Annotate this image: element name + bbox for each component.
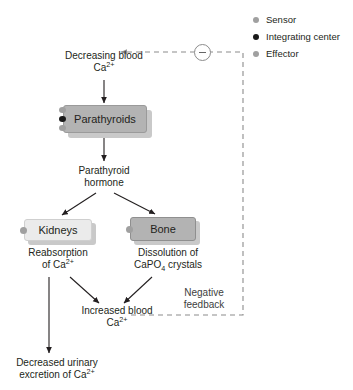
legend: Sensor Integrating center Effector [253,12,353,63]
reabsorption-charge: 2+ [66,257,74,266]
feedback-line1: Negative [168,287,240,299]
box-parathyroids-label: Parathyroids [74,113,136,125]
bone-role-dots [126,217,133,241]
box-bone-label: Bone [150,223,176,235]
box-bone[interactable]: Bone [130,217,196,241]
node-decreased-excretion: Decreased urinary excretion of Ca2+ [0,357,117,381]
stimulus-line2: Ca2+ [44,62,164,74]
negative-feedback-minus-icon [194,44,211,61]
effector-dot-icon [20,227,27,234]
kidneys-role-dots [20,219,27,241]
parathyroids-role-dots [59,105,66,133]
node-parathyroid-hormone: Parathyroid hormone [54,165,154,189]
node-dissolution: Dissolution of CaPO4 crystals [112,247,224,271]
effector-dot-icon [253,51,259,57]
diagram-canvas: Sensor Integrating center Effector Decre… [0,0,353,390]
minus-bar-glyph [199,52,206,53]
box-parathyroids[interactable]: Parathyroids [63,105,147,133]
integrating-center-dot-icon [59,116,66,122]
legend-label-effector: Effector [266,48,299,59]
legend-label-integrating-center: Integrating center [266,31,340,42]
stimulus-ca: Ca [94,62,107,73]
feedback-line2: feedback [168,299,240,311]
increased-charge: 2+ [119,315,127,324]
dissolution-capo: CaPO [134,259,161,270]
stimulus-charge: 2+ [106,60,114,69]
arrow-dissolution-to-increased [124,277,152,303]
increased-ca: Ca [107,317,120,328]
sensor-dot-icon [59,107,66,113]
arrow-hormone-to-bone [114,193,155,214]
integrating-center-dot-icon [253,34,259,40]
dissolution-crystals: crystals [165,259,202,270]
legend-item-effector: Effector [253,46,353,61]
legend-item-integrating-center: Integrating center [253,29,353,44]
legend-item-sensor: Sensor [253,12,353,27]
sensor-dot-icon [253,17,259,23]
excretion-charge: 2+ [87,367,95,376]
reabsorption-line1: Reabsorption [8,247,108,259]
arrow-hormone-to-kidneys [62,193,96,215]
excretion-of-ca: excretion of Ca [19,369,86,380]
increased-line2: Ca2+ [62,317,172,329]
excretion-line2: excretion of Ca2+ [0,369,117,381]
hormone-line1: Parathyroid [54,165,154,177]
stimulus-line1: Decreasing blood [44,50,164,62]
reabsorption-of-ca: of Ca [42,259,66,270]
node-negative-feedback-label: Negative feedback [168,287,240,311]
dissolution-line1: Dissolution of [112,247,224,259]
reabsorption-line2: of Ca2+ [8,259,108,271]
box-kidneys-label: Kidneys [38,224,77,236]
effector-dot-icon [126,226,133,233]
sensor-dot-icon [59,125,66,131]
hormone-line2: hormone [54,177,154,189]
node-increased-blood-ca: Increased blood Ca2+ [62,305,172,329]
dissolution-line2: CaPO4 crystals [112,259,224,271]
legend-label-sensor: Sensor [266,14,296,25]
box-kidneys[interactable]: Kidneys [24,219,92,241]
increased-line1: Increased blood [62,305,172,317]
excretion-line1: Decreased urinary [0,357,117,369]
node-stimulus: Decreasing blood Ca2+ [44,50,164,74]
node-reabsorption: Reabsorption of Ca2+ [8,247,108,271]
arrow-reabsorption-to-increased [70,277,99,303]
